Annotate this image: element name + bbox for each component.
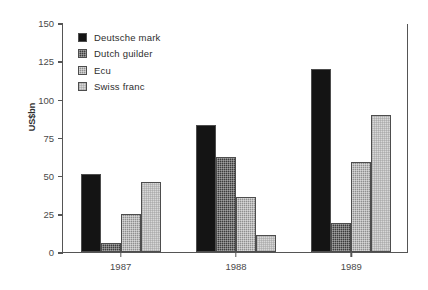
y-axis-tick: 150 [38, 19, 63, 29]
legend-swatch-icon [78, 49, 87, 58]
bar [81, 174, 101, 252]
y-axis-tick-mark [58, 176, 63, 177]
x-axis-tick-label: 1989 [341, 261, 362, 272]
y-axis-tick-label: 75 [43, 134, 58, 144]
legend-item-label: Dutch guilder [94, 48, 153, 59]
y-axis-tick-label: 125 [38, 57, 58, 67]
y-axis-tick-label: 50 [43, 172, 58, 182]
bar [101, 243, 121, 252]
bar [216, 157, 236, 252]
bar [236, 197, 256, 252]
x-axis-tick-mark [235, 252, 236, 257]
legend-item: Deutsche mark [78, 30, 160, 44]
bar [141, 182, 161, 252]
y-axis-tick: 25 [43, 210, 63, 220]
legend-item: Swiss franc [78, 80, 160, 94]
legend-item: Ecu [78, 63, 160, 77]
y-axis-tick-label: 25 [43, 210, 58, 220]
y-axis-tick-label: 0 [49, 248, 58, 258]
y-axis-tick-mark [58, 23, 63, 24]
y-axis-tick-mark [58, 214, 63, 215]
bar [331, 223, 351, 252]
bar [196, 125, 216, 252]
bar [371, 115, 391, 252]
legend: Deutsche markDutch guilderEcuSwiss franc [78, 30, 160, 96]
bar [311, 69, 331, 252]
legend-swatch-icon [78, 66, 87, 75]
y-axis-tick: 0 [49, 248, 63, 258]
y-axis-tick: 75 [43, 134, 63, 144]
y-axis-tick-label: 150 [38, 19, 58, 29]
y-axis-tick-label: 100 [38, 96, 58, 106]
y-axis-tick-mark [58, 252, 63, 253]
y-axis-title: US$bn [27, 87, 37, 147]
legend-item-label: Swiss franc [94, 81, 145, 92]
x-axis-tick-mark [120, 252, 121, 257]
y-axis-tick: 100 [38, 95, 63, 105]
y-axis-tick-mark [58, 61, 63, 62]
y-axis-tick-mark [58, 138, 63, 139]
y-axis-tick-mark [58, 100, 63, 101]
y-axis-tick: 125 [38, 57, 63, 67]
y-axis-tick: 50 [43, 172, 63, 182]
legend-swatch-icon [78, 82, 87, 91]
x-axis-tick-label: 1987 [110, 261, 131, 272]
bar [351, 162, 371, 252]
x-axis-tick-label: 1988 [225, 261, 246, 272]
legend-item-label: Ecu [94, 65, 111, 76]
legend-item: Dutch guilder [78, 47, 160, 61]
bar [256, 235, 276, 252]
bar-chart: US$bn 0255075100125150 198719881989 Deut… [0, 0, 428, 290]
legend-item-label: Deutsche mark [94, 32, 160, 43]
bar [121, 214, 141, 252]
legend-swatch-icon [78, 33, 87, 42]
x-axis-tick-mark [351, 252, 352, 257]
